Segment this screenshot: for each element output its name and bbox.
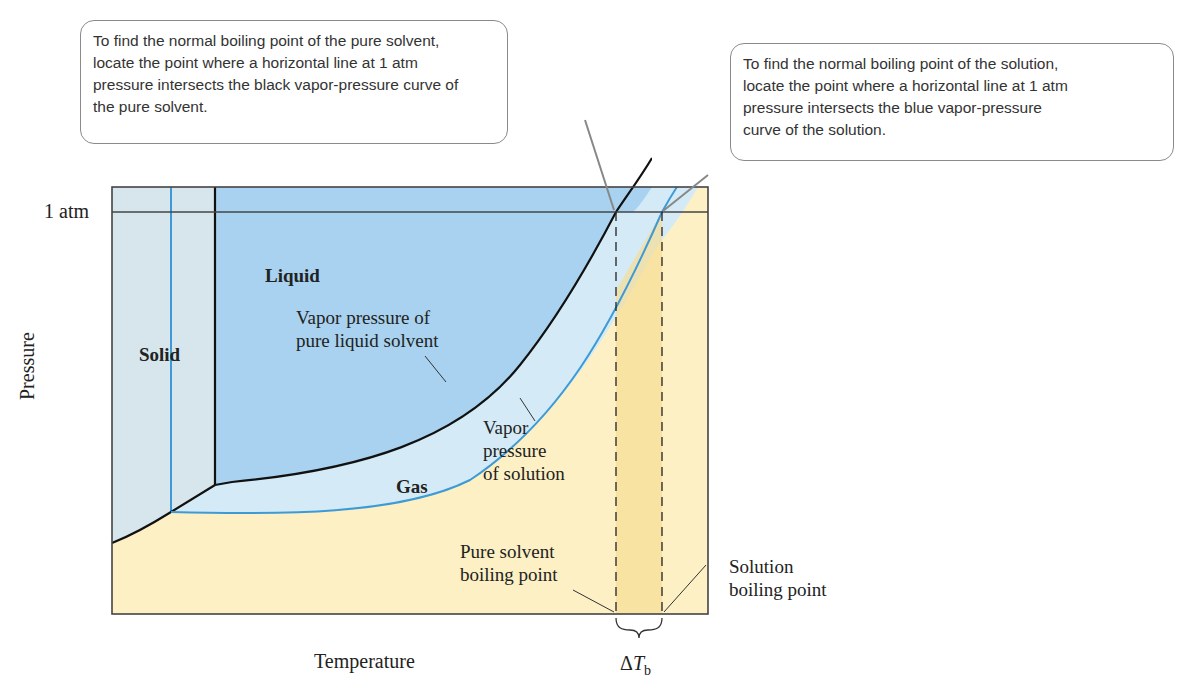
gas-region-label: Gas [396,476,428,498]
solid-region-label: Solid [139,344,180,366]
solution-bp-label: Solution boiling point [729,555,827,601]
callout-line: the pure solvent. [93,96,495,118]
callout-line: pressure intersects the black vapor-pres… [93,74,495,96]
callout-line: pressure intersects the blue vapor-press… [743,97,1161,119]
pure-vp-label: Vapor pressure of pure liquid solvent [296,306,438,352]
callout-line: curve of the solution. [743,119,1161,141]
pure-bp-label: Pure solvent boiling point [460,540,558,586]
x-axis-label: Temperature [314,650,415,672]
callout-solution: To find the normal boiling point of the … [730,43,1174,161]
delta-tb-brace [616,618,662,638]
liquid-region-label: Liquid [265,265,320,287]
label-line: boiling point [460,563,558,586]
label-line: pressure [483,439,565,462]
label-line: Solution [729,555,827,578]
label-line: of solution [483,462,565,485]
callout-line: locate the point where a horizontal line… [93,52,495,74]
y-tick-1-atm: 1 atm [44,200,89,222]
solution-vp-label: Vapor pressure of solution [483,416,565,485]
label-line: pure liquid solvent [296,329,438,352]
label-line: Vapor [483,416,565,439]
label-line: boiling point [729,578,827,601]
callout-pure-solvent: To find the normal boiling point of the … [80,20,508,144]
delta-subscript: b [644,663,651,678]
label-line: Vapor pressure of [296,306,438,329]
y-axis-label: Pressure [16,332,38,400]
label-line: Pure solvent [460,540,558,563]
delta-tb-label: ΔTb [620,652,651,682]
callout-line: To find the normal boiling point of the … [743,53,1161,75]
delta-symbol: ΔT [620,652,644,674]
callout-line: To find the normal boiling point of the … [93,30,495,52]
callout-line: locate the point where a horizontal line… [743,75,1161,97]
